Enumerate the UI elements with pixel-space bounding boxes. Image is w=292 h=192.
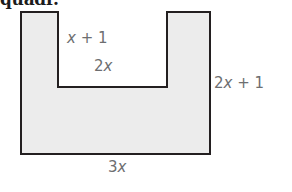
coefficient-three: 3 bbox=[108, 158, 118, 176]
variable-x: x bbox=[118, 158, 127, 176]
operator-plus: + bbox=[76, 29, 98, 47]
variable-x: x bbox=[67, 29, 76, 47]
variable-x: x bbox=[104, 57, 113, 75]
figure-container: quadr. x + 1 2x 2x + 1 3x bbox=[0, 0, 292, 192]
constant-one: 1 bbox=[98, 29, 108, 47]
coefficient-two: 2 bbox=[214, 74, 224, 92]
dimension-label-right-height: 2x + 1 bbox=[214, 76, 264, 91]
dimension-label-inner-left-height: x + 1 bbox=[67, 31, 108, 46]
u-shape-outline bbox=[21, 12, 210, 154]
constant-one: 1 bbox=[255, 74, 265, 92]
operator-plus: + bbox=[232, 74, 254, 92]
dimension-label-notch-width: 2x bbox=[94, 59, 112, 74]
dimension-label-bottom-width: 3x bbox=[108, 160, 126, 175]
coefficient-two: 2 bbox=[94, 57, 104, 75]
u-shape-diagram bbox=[0, 0, 292, 192]
